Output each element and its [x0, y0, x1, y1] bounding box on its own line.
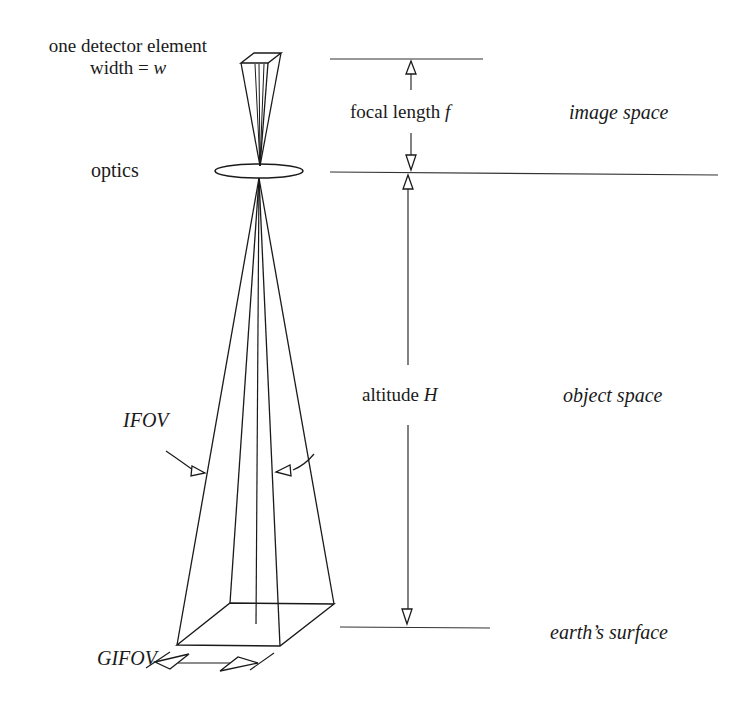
altitude-label: altitude H — [362, 384, 437, 406]
earths-surface-label: earth’s surface — [550, 621, 668, 643]
focal-length-variable: f — [445, 101, 450, 122]
gifov-label: GIFOV — [97, 647, 157, 669]
width-equals-text: width = — [90, 57, 154, 78]
focal-length-text: focal length — [350, 101, 445, 122]
ifov-pyramid — [177, 178, 334, 646]
earth-surface-line — [340, 627, 490, 628]
object-space-label: object space — [563, 384, 662, 406]
gifov-arrow — [146, 652, 274, 671]
ifov-label: IFOV — [123, 409, 169, 431]
image-space-label: image space — [569, 101, 668, 123]
altitude-text: altitude — [362, 384, 424, 405]
detector-element — [241, 53, 281, 166]
altitude-variable: H — [424, 384, 438, 405]
optics-lens — [215, 164, 303, 178]
detector-label-line1: one detector element — [28, 35, 228, 57]
optics-plane-line — [330, 172, 718, 175]
focal-length-label: focal length f — [350, 101, 450, 123]
optics-label: optics — [91, 159, 139, 181]
detector-element-label: one detector element width = w — [28, 35, 228, 79]
width-variable: w — [153, 57, 166, 78]
detector-label-line2: width = w — [28, 57, 228, 79]
